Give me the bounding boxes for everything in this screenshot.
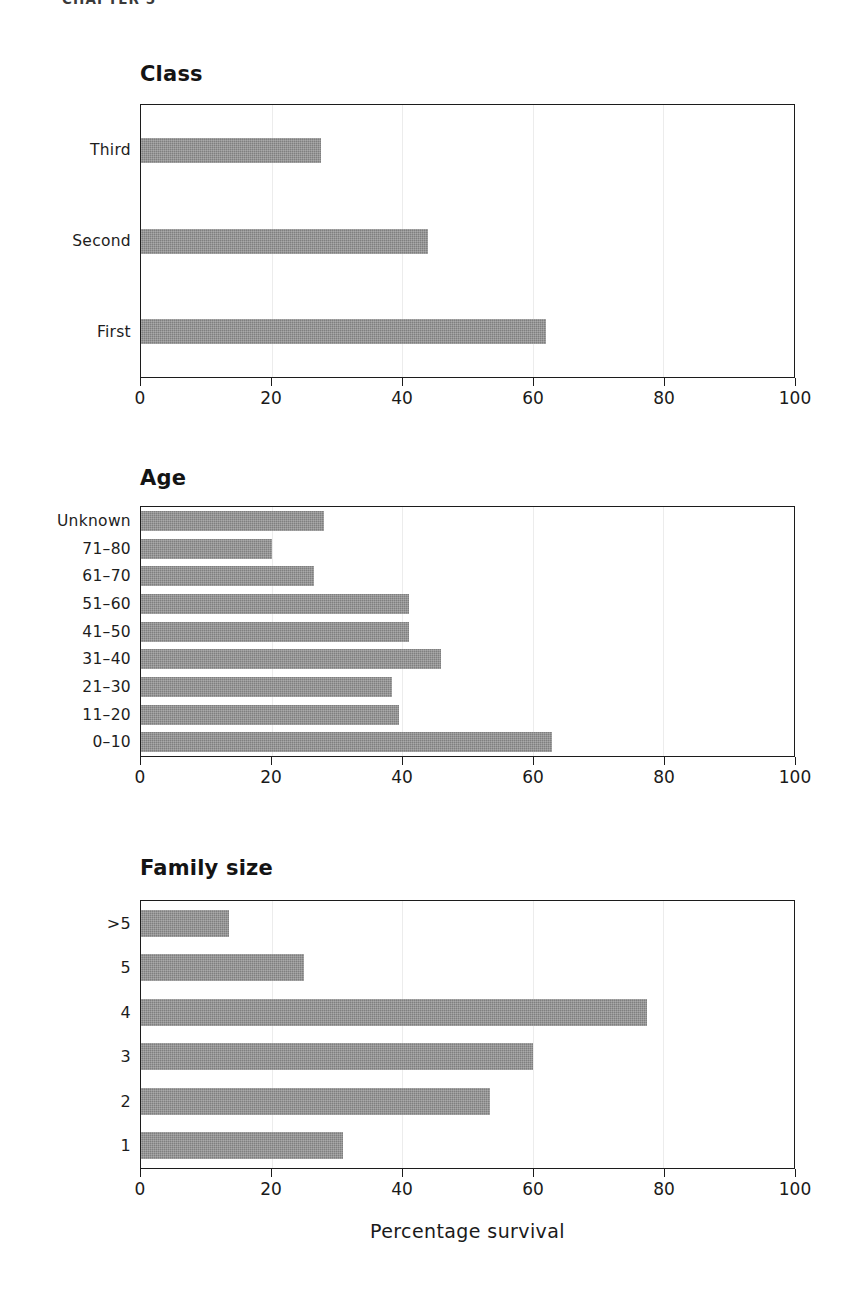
axis-tick bbox=[795, 1169, 796, 1177]
bar-row bbox=[141, 990, 794, 1035]
category-label: 11–20 bbox=[1, 701, 131, 729]
bar-series-class bbox=[141, 105, 794, 377]
axis-tick-label: 40 bbox=[391, 767, 413, 787]
axis-tick bbox=[795, 378, 796, 386]
bar-row bbox=[141, 590, 794, 618]
bar bbox=[141, 539, 272, 559]
bar bbox=[141, 319, 546, 344]
bar bbox=[141, 732, 552, 752]
x-axis-class: 020406080100 bbox=[140, 378, 795, 412]
x-axis-age: 020406080100 bbox=[140, 757, 795, 791]
bar-row bbox=[141, 728, 794, 756]
chart-title-age: Age bbox=[140, 466, 186, 490]
axis-tick bbox=[140, 1169, 141, 1177]
axis-tick bbox=[271, 757, 272, 765]
chart-panel-family-size: Family size >554321 020406080100 Percent… bbox=[0, 852, 854, 1252]
bar bbox=[141, 677, 392, 697]
axis-tick-label: 60 bbox=[522, 1179, 544, 1199]
category-labels-age: Unknown71–8061–7051–6041–5031–4021–3011–… bbox=[1, 507, 131, 756]
category-label: 31–40 bbox=[1, 645, 131, 673]
category-labels-family-size: >554321 bbox=[1, 901, 131, 1168]
bar-row bbox=[141, 645, 794, 673]
bar bbox=[141, 910, 229, 937]
bar-series-family-size bbox=[141, 901, 794, 1168]
axis-tick-label: 100 bbox=[779, 388, 811, 408]
bar bbox=[141, 138, 321, 163]
category-label: 1 bbox=[1, 1124, 131, 1169]
axis-tick-label: 40 bbox=[391, 388, 413, 408]
category-label: 4 bbox=[1, 990, 131, 1035]
bar-row bbox=[141, 196, 794, 287]
category-label: Third bbox=[1, 105, 131, 196]
bar bbox=[141, 566, 314, 586]
category-label: First bbox=[1, 286, 131, 377]
axis-tick bbox=[533, 757, 534, 765]
chart-panel-age: Age Unknown71–8061–7051–6041–5031–4021–3… bbox=[0, 462, 854, 822]
category-label: 71–80 bbox=[1, 535, 131, 563]
bar-row bbox=[141, 535, 794, 563]
axis-tick bbox=[664, 757, 665, 765]
chart-panel-class: Class ThirdSecondFirst 020406080100 bbox=[0, 60, 854, 420]
axis-tick-label: 20 bbox=[260, 1179, 282, 1199]
bar-row bbox=[141, 1124, 794, 1169]
bar bbox=[141, 511, 324, 531]
chart-title-family-size: Family size bbox=[140, 856, 273, 880]
axis-tick bbox=[402, 378, 403, 386]
category-label: 2 bbox=[1, 1079, 131, 1124]
bar-row bbox=[141, 1079, 794, 1124]
category-label: 41–50 bbox=[1, 618, 131, 646]
category-label: Unknown bbox=[1, 507, 131, 535]
bar bbox=[141, 1132, 343, 1159]
bar bbox=[141, 594, 409, 614]
bar-row bbox=[141, 701, 794, 729]
axis-tick-label: 0 bbox=[135, 1179, 146, 1199]
chart-title-class: Class bbox=[140, 62, 203, 86]
bar-row bbox=[141, 901, 794, 946]
axis-tick bbox=[664, 378, 665, 386]
bar-series-age bbox=[141, 507, 794, 756]
axis-tick-label: 100 bbox=[779, 767, 811, 787]
axis-tick bbox=[140, 378, 141, 386]
bar bbox=[141, 954, 304, 981]
category-label: 21–30 bbox=[1, 673, 131, 701]
axis-tick bbox=[533, 378, 534, 386]
bar-row bbox=[141, 618, 794, 646]
axis-tick-label: 40 bbox=[391, 1179, 413, 1199]
axis-tick-label: 80 bbox=[653, 1179, 675, 1199]
category-label: 61–70 bbox=[1, 562, 131, 590]
running-head: CHAPTER 5 bbox=[62, 0, 156, 7]
category-label: 5 bbox=[1, 946, 131, 991]
axis-tick bbox=[664, 1169, 665, 1177]
category-label: Second bbox=[1, 196, 131, 287]
axis-tick bbox=[271, 378, 272, 386]
bar-row bbox=[141, 562, 794, 590]
axis-tick-label: 0 bbox=[135, 388, 146, 408]
axis-tick-label: 0 bbox=[135, 767, 146, 787]
bar-row bbox=[141, 286, 794, 377]
bar bbox=[141, 999, 647, 1026]
plot-area-family-size: >554321 bbox=[140, 900, 795, 1169]
x-axis-title: Percentage survival bbox=[140, 1220, 795, 1242]
plot-area-class: ThirdSecondFirst bbox=[140, 104, 795, 378]
axis-tick-label: 80 bbox=[653, 767, 675, 787]
axis-tick-label: 80 bbox=[653, 388, 675, 408]
axis-tick-label: 100 bbox=[779, 1179, 811, 1199]
category-labels-class: ThirdSecondFirst bbox=[1, 105, 131, 377]
axis-tick bbox=[140, 757, 141, 765]
axis-tick bbox=[533, 1169, 534, 1177]
x-axis-family-size: 020406080100 bbox=[140, 1169, 795, 1203]
axis-tick-label: 20 bbox=[260, 767, 282, 787]
bar-row bbox=[141, 673, 794, 701]
bar-row bbox=[141, 946, 794, 991]
bar bbox=[141, 229, 428, 254]
category-label: 0–10 bbox=[1, 728, 131, 756]
axis-tick-label: 60 bbox=[522, 388, 544, 408]
axis-tick-label: 20 bbox=[260, 388, 282, 408]
bar bbox=[141, 705, 399, 725]
category-label: 3 bbox=[1, 1035, 131, 1080]
axis-tick bbox=[402, 1169, 403, 1177]
bar-row bbox=[141, 507, 794, 535]
axis-tick bbox=[402, 757, 403, 765]
plot-area-age: Unknown71–8061–7051–6041–5031–4021–3011–… bbox=[140, 506, 795, 757]
category-label: >5 bbox=[1, 901, 131, 946]
